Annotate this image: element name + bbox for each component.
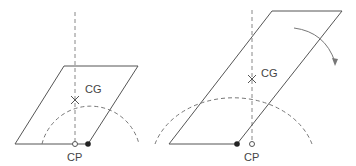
cg-label: CG (85, 83, 102, 95)
cg-label: CG (261, 67, 278, 79)
pivot-dot (85, 141, 91, 147)
parallelogram (169, 11, 342, 144)
rotation-arc (42, 106, 139, 144)
rotation-arrow-icon (294, 28, 335, 62)
pivot-dot (234, 141, 240, 147)
right-figure: CG CP (155, 10, 342, 163)
stability-diagram: CG CP CG CP (0, 0, 356, 166)
cp-label: CP (67, 151, 82, 163)
arrowhead-icon (332, 58, 338, 66)
cp-label: CP (244, 151, 259, 163)
cp-open-circle (250, 142, 255, 147)
left-figure: CG CP (15, 12, 139, 163)
cp-open-circle (73, 142, 78, 147)
rotation-arc (155, 98, 312, 144)
parallelogram (15, 66, 138, 144)
